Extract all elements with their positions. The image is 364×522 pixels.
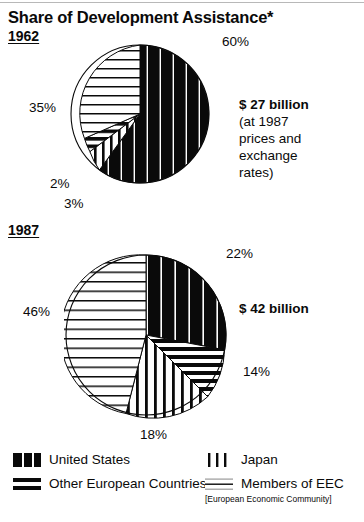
legend-label-japan: Japan xyxy=(241,452,278,467)
legend-item-united-states: United States xyxy=(13,452,130,467)
amount-note-1962-line-1: prices and xyxy=(239,130,309,147)
amount-note-1962-line-3: rates) xyxy=(239,164,309,181)
legend-label-eec: Members of EEC xyxy=(241,476,344,491)
swatch-united-states-icon xyxy=(13,453,41,467)
pie-chart-1962 xyxy=(70,32,212,204)
amount-block-1987: $ 42 billion xyxy=(239,300,309,317)
pie-label-1987-united-states: 22% xyxy=(226,246,253,261)
swatch-other-european-icon xyxy=(13,477,41,491)
pie-label-1987-japan: 18% xyxy=(140,427,167,442)
legend-sublabel-eec: [European Economic Community] xyxy=(205,494,332,504)
page-title: Share of Development Assistance* xyxy=(8,8,273,27)
pie-label-1962-eec: 35% xyxy=(29,100,56,115)
pie-label-1987-other-european: 14% xyxy=(243,364,270,379)
pie-svg-1962 xyxy=(70,32,212,200)
amount-note-1962-line-0: (at 1987 xyxy=(239,113,309,130)
legend-item-other-european: Other European Countries xyxy=(13,476,207,491)
pie-svg-1987 xyxy=(64,243,234,429)
year-label-1962: 1962 xyxy=(8,28,39,44)
pie-chart-1987 xyxy=(64,243,234,433)
amount-1987: $ 42 billion xyxy=(239,300,309,317)
pie-slice-1987-united-states xyxy=(146,255,226,350)
pie-label-1962-japan: 3% xyxy=(64,196,84,211)
legend-item-japan: Japan xyxy=(205,452,278,467)
pie-label-1987-eec: 46% xyxy=(23,304,50,319)
pie-label-1962-other-european: 2% xyxy=(50,176,70,191)
legend-label-other-european: Other European Countries xyxy=(49,476,207,491)
legend-item-eec: Members of EEC xyxy=(205,476,344,491)
legend-label-united-states: United States xyxy=(49,452,130,467)
year-label-1987: 1987 xyxy=(8,222,39,238)
pie-label-1962-united-states: 60% xyxy=(222,34,249,49)
swatch-japan-icon xyxy=(205,453,233,467)
amount-1962: $ 27 billion xyxy=(239,96,309,113)
top-divider xyxy=(0,2,364,3)
swatch-eec-icon xyxy=(205,477,233,491)
amount-note-1962-line-2: exchange xyxy=(239,147,309,164)
amount-block-1962: $ 27 billion (at 1987 prices and exchang… xyxy=(239,96,309,181)
